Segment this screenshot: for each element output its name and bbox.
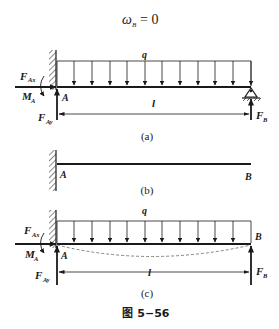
caption-a: (a) (141, 130, 154, 143)
svg-text:A: A (30, 97, 36, 104)
load-label-q-c: q (142, 205, 147, 216)
svg-text:F: F (19, 70, 28, 82)
load-label-q-a: q (142, 49, 147, 60)
svg-text:F: F (34, 269, 43, 281)
distributed-load-a (57, 61, 251, 86)
moment-arc-a (41, 76, 45, 96)
caption-c: (c) (141, 287, 154, 300)
svg-text:A: A (33, 255, 39, 262)
figure-caption: 图 5−56 (122, 307, 169, 320)
svg-text:A: A (61, 92, 69, 103)
svg-text:Ay: Ay (45, 118, 53, 125)
svg-text:B: B (262, 272, 268, 279)
svg-text:B: B (132, 21, 137, 29)
moment-arc-c (41, 233, 45, 253)
svg-text:= 0: = 0 (140, 12, 158, 27)
svg-text:F: F (37, 111, 46, 123)
panel-b: A B (b) (49, 150, 252, 197)
svg-text:Ax: Ax (31, 231, 40, 238)
distributed-load-c (57, 221, 251, 243)
fixed-wall-b (49, 150, 56, 191)
deflection-curve-c (57, 245, 251, 257)
svg-text:A: A (59, 169, 67, 180)
omega-b-equation: ω B = 0 (122, 12, 158, 29)
fixed-wall-a (49, 50, 56, 90)
svg-text:Ax: Ax (27, 76, 36, 83)
svg-text:B: B (262, 116, 268, 123)
svg-text:A: A (60, 250, 68, 261)
svg-text:F: F (23, 224, 32, 236)
fixed-wall-c (49, 210, 56, 248)
svg-text:ω: ω (122, 12, 132, 27)
svg-text:l: l (152, 97, 156, 109)
svg-text:Ay: Ay (42, 276, 50, 283)
panel-a: q F Ax M A A F Ay F B l (a) (15, 49, 268, 143)
panel-c: q F Ax M A A F Ay B F B l (c) (15, 205, 268, 300)
svg-text:B: B (244, 171, 252, 182)
beam-figure: ω B = 0 q F (0, 0, 279, 329)
caption-b: (b) (141, 184, 154, 197)
svg-text:B: B (254, 231, 262, 242)
